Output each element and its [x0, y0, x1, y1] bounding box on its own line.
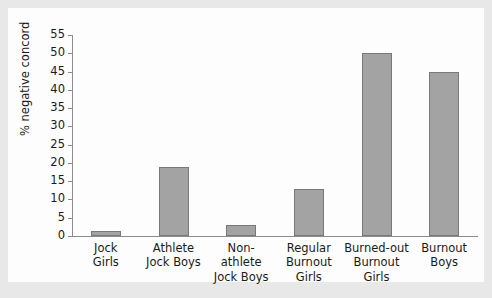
chart-canvas: % negative concord 051015202530354045505… [8, 8, 484, 282]
x-axis-label-line: Girls [343, 270, 411, 284]
y-tick-label: 50 [50, 48, 65, 60]
y-tick-mark [68, 90, 72, 91]
x-axis-label-line: Girls [275, 270, 343, 284]
plot-area: 0510152025303540455055 JockGirlsAthleteJ… [72, 35, 478, 236]
x-axis-label-line: Boys [410, 255, 478, 269]
y-tick-label: 0 [58, 230, 65, 242]
y-axis-title: % negative concord [20, 22, 32, 136]
y-tick-mark [68, 163, 72, 164]
x-axis-label: RegularBurnoutGirls [275, 241, 343, 284]
x-axis-label: BurnoutBoys [410, 241, 478, 270]
y-tick-mark [68, 181, 72, 182]
x-axis-label-line: Non-athlete [207, 241, 275, 270]
x-axis-label-line: Burned-out [343, 241, 411, 255]
y-tick-label: 35 [50, 102, 65, 114]
y-tick-label: 10 [50, 194, 65, 206]
y-tick-mark [68, 108, 72, 109]
x-axis-line [72, 236, 478, 237]
y-tick-label: 5 [58, 212, 65, 224]
x-axis-label: Burned-outBurnoutGirls [343, 241, 411, 284]
x-axis-label-line: Burnout [410, 241, 478, 255]
bar [429, 72, 459, 236]
bar [91, 231, 121, 236]
bar [294, 189, 324, 237]
bar [362, 53, 392, 236]
x-axis-label-line: Regular [275, 241, 343, 255]
x-axis-label-line: Jock Boys [207, 270, 275, 284]
y-tick-mark [68, 236, 72, 237]
y-axis-line [72, 35, 73, 236]
y-tick-mark [68, 218, 72, 219]
y-tick-mark [68, 53, 72, 54]
y-tick-label: 55 [50, 29, 65, 41]
x-axis-label-line: Girls [72, 255, 140, 269]
bar [226, 225, 256, 236]
y-tick-mark [68, 72, 72, 73]
x-axis-label-line: Athlete [140, 241, 208, 255]
x-axis-label-line: Jock [72, 241, 140, 255]
y-tick-mark [68, 35, 72, 36]
x-axis-label-line: Jock Boys [140, 255, 208, 269]
x-axis-label: JockGirls [72, 241, 140, 270]
y-tick-mark [68, 126, 72, 127]
x-axis-label: AthleteJock Boys [140, 241, 208, 270]
y-tick-label: 40 [50, 84, 65, 96]
y-tick-label: 30 [50, 121, 65, 133]
y-tick-label: 20 [50, 157, 65, 169]
y-tick-mark [68, 199, 72, 200]
y-tick-mark [68, 145, 72, 146]
y-tick-label: 25 [50, 139, 65, 151]
y-tick-label: 15 [50, 175, 65, 187]
x-axis-label: Non-athleteJock Boys [207, 241, 275, 284]
x-axis-label-line: Burnout [275, 255, 343, 269]
chart-figure: % negative concord 051015202530354045505… [0, 0, 492, 298]
x-axis-label-line: Burnout [343, 255, 411, 269]
y-tick-label: 45 [50, 66, 65, 78]
bar [159, 167, 189, 236]
